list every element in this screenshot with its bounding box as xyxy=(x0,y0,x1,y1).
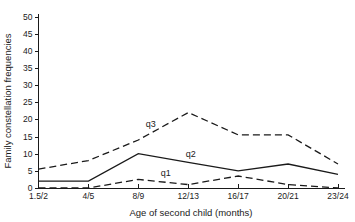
x-tick-label: 23/24 xyxy=(327,191,349,201)
x-tick-label: 8/9 xyxy=(132,191,144,201)
y-tick-label: 35 xyxy=(23,63,33,73)
y-tick-label: 20 xyxy=(23,114,33,124)
y-tick-label: 25 xyxy=(23,97,33,107)
x-tick-label: 12/13 xyxy=(178,191,200,201)
x-tick-label: 4/5 xyxy=(83,191,95,201)
line-chart: 05101520253035404550 1.5/24/58/912/1316/… xyxy=(0,0,355,222)
y-tick-label: 5 xyxy=(28,166,33,176)
y-tick-label: 30 xyxy=(23,80,33,90)
x-tick-label: 1.5/2 xyxy=(29,191,48,201)
series-label-q2: q2 xyxy=(186,149,196,159)
chart-svg: 05101520253035404550 1.5/24/58/912/1316/… xyxy=(0,0,355,222)
y-tick-label: 40 xyxy=(23,46,33,56)
series-label-q3: q3 xyxy=(146,119,156,129)
y-tick-label: 10 xyxy=(23,149,33,159)
x-tick-label: 20/21 xyxy=(277,191,299,201)
x-axis-title: Age of second child (months) xyxy=(129,207,252,218)
y-tick-label: 50 xyxy=(23,12,33,22)
x-tick-label: 16/17 xyxy=(228,191,250,201)
y-tick-label: 15 xyxy=(23,132,33,142)
y-axis-title: Family constellation frequencies xyxy=(2,33,13,168)
y-tick-label: 45 xyxy=(23,29,33,39)
series-label-q1: q1 xyxy=(161,168,171,178)
